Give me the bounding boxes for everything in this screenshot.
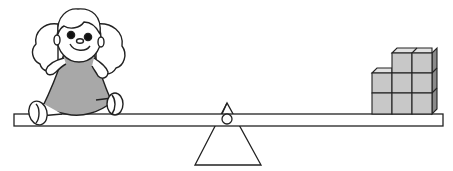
cube xyxy=(412,53,432,73)
cube xyxy=(372,93,392,114)
cube-top-face xyxy=(372,68,392,73)
doll-eye-right xyxy=(84,33,91,40)
doll-ear-left xyxy=(54,35,60,45)
doll-nose xyxy=(77,39,84,44)
cube xyxy=(412,93,432,114)
doll xyxy=(26,9,125,127)
cube-side-face xyxy=(432,48,437,114)
cube xyxy=(392,93,412,114)
doll-eye-left xyxy=(67,31,74,38)
cube xyxy=(392,53,412,73)
cube xyxy=(392,73,412,93)
cube-stack xyxy=(372,48,437,114)
seesaw-diagram: Seesaw balance: doll vs. cubes xyxy=(0,0,453,171)
doll-ear-right xyxy=(98,37,104,47)
seesaw-canvas xyxy=(0,0,453,171)
fulcrum-triangle xyxy=(195,103,261,165)
cube xyxy=(372,73,392,93)
cube xyxy=(412,73,432,93)
